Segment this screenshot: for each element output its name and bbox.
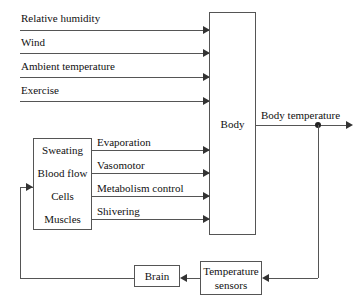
output-arrowhead-body-temperature	[346, 121, 353, 129]
effector-item-cells: Cells	[33, 190, 92, 203]
signal-arrowhead-evaporation	[203, 146, 210, 154]
output-line-body-temperature	[256, 125, 348, 126]
signal-line-vasomotor	[92, 173, 210, 174]
temperature-sensors-label-line1: Temperature	[200, 265, 262, 278]
sensors-to-brain-line	[187, 278, 200, 279]
brain-block-label: Brain	[134, 265, 180, 287]
signal-label-vasomotor: Vasomotor	[97, 159, 145, 171]
brain-to-effector-line-vertical	[20, 187, 21, 278]
signal-line-evaporation	[92, 150, 210, 151]
feedback-line-vertical-right	[318, 125, 319, 278]
signal-arrowhead-metabolism-control	[203, 192, 210, 200]
input-line-relative-humidity	[20, 30, 210, 31]
signal-line-metabolism-control	[92, 196, 210, 197]
input-label-ambient-temperature: Ambient temperature	[21, 60, 115, 72]
signal-line-shivering	[92, 219, 210, 220]
feedback-arrowhead-sensors	[262, 274, 269, 282]
effector-item-muscles: Muscles	[33, 213, 92, 226]
body-block-label: Body	[209, 115, 256, 133]
signal-arrowhead-shivering	[203, 215, 210, 223]
input-line-ambient-temperature	[20, 77, 210, 78]
thermoregulation-block-diagram: Relative humidity Wind Ambient temperatu…	[0, 0, 361, 305]
brain-to-effector-arrowhead	[26, 183, 33, 191]
signal-label-evaporation: Evaporation	[97, 136, 151, 148]
input-line-wind	[20, 53, 210, 54]
output-label-body-temperature: Body temperature	[261, 109, 340, 121]
sensors-to-brain-arrowhead	[180, 274, 187, 282]
effector-item-sweating: Sweating	[33, 144, 92, 157]
brain-to-effector-line-horizontal	[20, 278, 134, 279]
effector-item-blood-flow: Blood flow	[33, 167, 92, 180]
signal-label-shivering: Shivering	[97, 205, 140, 217]
input-label-relative-humidity: Relative humidity	[21, 12, 100, 24]
input-label-exercise: Exercise	[21, 84, 59, 96]
signal-arrowhead-vasomotor	[203, 169, 210, 177]
input-label-wind: Wind	[21, 36, 45, 48]
input-line-exercise	[20, 101, 210, 102]
signal-label-metabolism-control: Metabolism control	[97, 182, 183, 194]
feedback-line-horizontal-to-sensors	[269, 278, 318, 279]
temperature-sensors-label-line2: sensors	[200, 279, 262, 292]
